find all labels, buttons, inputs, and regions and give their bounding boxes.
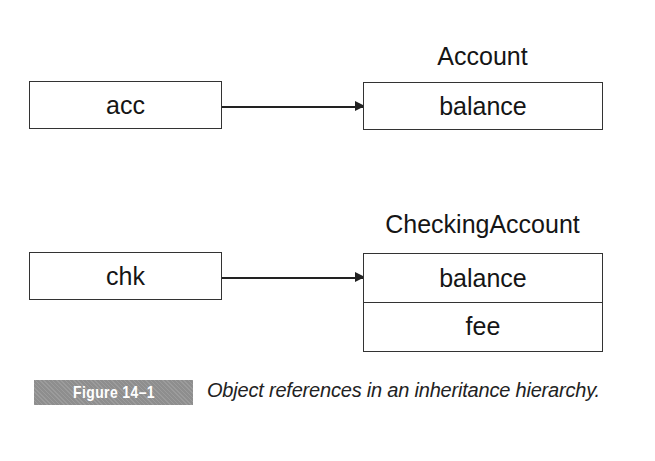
figure-number: Figure 14–1	[73, 383, 155, 403]
reference-label: acc	[30, 82, 221, 128]
reference-box-acc: acc	[29, 81, 222, 129]
class-name-account: Account	[363, 42, 602, 71]
figure-number-badge: Figure 14–1	[34, 380, 193, 405]
reference-arrow	[222, 277, 363, 279]
object-box-checking-account: balance fee	[363, 253, 603, 352]
field-fee: fee	[364, 303, 602, 350]
field-balance: balance	[364, 254, 602, 303]
field-balance: balance	[364, 83, 602, 129]
reference-box-chk: chk	[29, 252, 222, 300]
reference-label: chk	[30, 253, 221, 299]
reference-arrow	[222, 106, 363, 108]
object-box-account: balance	[363, 82, 603, 130]
figure-caption: Object references in an inheritance hier…	[207, 379, 600, 402]
class-name-checking-account: CheckingAccount	[350, 210, 615, 239]
